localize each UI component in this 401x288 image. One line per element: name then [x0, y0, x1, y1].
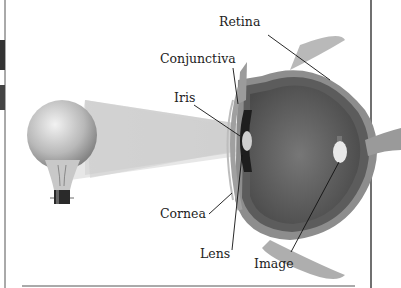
- page-edge: [0, 0, 5, 288]
- eye-diagram: Retina Conjunctiva Iris Cornea Lens Imag…: [0, 0, 401, 288]
- label-conjunctiva: Conjunctiva: [160, 53, 236, 66]
- label-lens: Lens: [200, 248, 230, 261]
- eye-cross-section: [228, 36, 401, 279]
- label-iris: Iris: [174, 92, 195, 105]
- light-bulb: [27, 100, 97, 204]
- label-cornea: Cornea: [160, 208, 206, 221]
- label-image: Image: [254, 258, 294, 271]
- diagram-canvas: [0, 0, 401, 288]
- label-retina: Retina: [219, 16, 260, 29]
